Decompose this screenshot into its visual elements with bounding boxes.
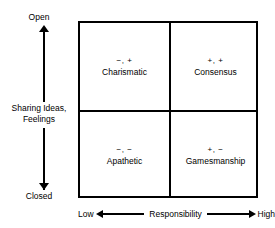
y-axis-title: Sharing Ideas, Feelings: [0, 102, 78, 125]
quadrant-bottom-right: +, − Gamesmanship: [171, 112, 260, 199]
arrow-left-icon: [96, 210, 103, 218]
quadrant-signs: −, +: [117, 56, 133, 66]
quadrant-signs: +, +: [208, 56, 224, 66]
x-axis-low-label: Low: [78, 209, 94, 219]
quadrant-label: Charismatic: [102, 67, 147, 78]
x-axis-title: Responsibility: [144, 209, 206, 219]
quadrant-label: Consensus: [194, 67, 237, 78]
arrow-right-icon: [249, 210, 256, 218]
quadrant-label: Gamesmanship: [186, 156, 246, 167]
y-axis-line-upper: [43, 30, 45, 102]
arrow-down-icon: [39, 183, 49, 190]
x-axis-line-left: [103, 213, 145, 215]
quadrant-bottom-left: −, − Apathetic: [80, 112, 169, 199]
quadrant-label: Apathetic: [107, 156, 142, 167]
x-axis-line-right: [207, 213, 249, 215]
x-axis: Low Responsibility High: [78, 206, 275, 222]
y-axis-title-line1: Sharing Ideas,: [0, 103, 78, 114]
y-axis-bottom-label: Closed: [0, 191, 78, 201]
y-axis-title-line2: Feelings: [0, 114, 78, 125]
y-axis: Open Sharing Ideas, Feelings Closed: [0, 12, 78, 204]
x-axis-high-label: High: [258, 209, 275, 219]
y-axis-line-lower: [43, 128, 45, 190]
quadrant-top-right: +, + Consensus: [171, 23, 260, 110]
y-axis-top-label: Open: [0, 12, 78, 22]
quadrant-matrix-figure: Open Sharing Ideas, Feelings Closed −, +…: [0, 0, 275, 228]
quadrant-signs: +, −: [208, 145, 224, 155]
quadrant-signs: −, −: [117, 145, 133, 155]
quadrant-top-left: −, + Charismatic: [80, 23, 169, 110]
matrix-box: −, + Charismatic +, + Consensus −, − Apa…: [78, 21, 258, 198]
